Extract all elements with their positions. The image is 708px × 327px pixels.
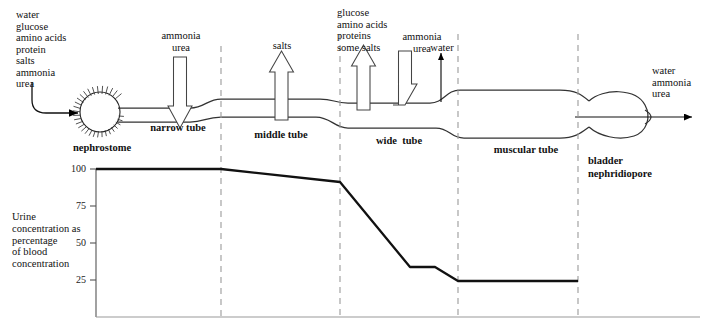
segment-label-muscular-tube: muscular tube [478, 144, 574, 156]
y-axis-title-line-1: Urine [12, 211, 120, 223]
concentration-curve [96, 169, 578, 281]
nephridium-diagram-page: water glucose amino acids protein salts … [0, 0, 708, 327]
arrow-ammonia-urea-wide [393, 51, 417, 105]
segment-label-wide-tube: wide tube [356, 135, 442, 147]
nephrostome-icon [73, 86, 124, 137]
label-ammonia-urea-narrow: ammonia urea [148, 30, 214, 53]
ytick-label-75: 75 [58, 200, 86, 211]
nephrostome-label: nephrostome [60, 142, 144, 154]
segment-label-narrow-tube: narrow tube [136, 122, 220, 134]
y-axis-title-line-4: of blood [12, 246, 120, 258]
ytick-label-25: 25 [58, 274, 86, 285]
label-salts-middle: salts [254, 40, 310, 52]
y-axis-title-line-3: percentage [12, 235, 120, 247]
y-axis-title-line-5: concentration [12, 258, 120, 270]
ytick-label-100: 100 [58, 163, 86, 174]
chart-y-axis-title: Urine concentration as percentage of blo… [12, 211, 120, 270]
chart-axes [90, 169, 700, 317]
arrow-salts-middle [270, 51, 294, 120]
bladder-label: bladder nephridiopore [588, 155, 652, 180]
tube-upper-wall [118, 90, 589, 108]
segment-label-middle-tube: middle tube [238, 129, 324, 141]
inflow-label: water glucose amino acids protein salts … [16, 9, 66, 90]
arrow-reabsorbed-wide [352, 45, 376, 110]
y-axis-title-line-2: concentration as [12, 223, 120, 235]
arrow-ammonia-urea-narrow [168, 57, 192, 128]
label-water-wide: water [424, 42, 460, 54]
outflow-label: water ammonia urea [652, 65, 691, 100]
label-reabsorbed-wide: glucose amino acids proteins some salts [337, 7, 387, 53]
bladder-shape [589, 92, 651, 138]
